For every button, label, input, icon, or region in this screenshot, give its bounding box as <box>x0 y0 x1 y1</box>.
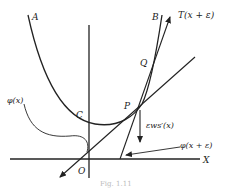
figure-caption: Fig. 1.11 <box>100 180 132 188</box>
phi-x-eps-leader <box>126 147 180 155</box>
label-eps-ws: εws′(x) <box>146 121 174 130</box>
label-C: C <box>76 110 83 120</box>
curve-ACPQB <box>28 15 162 125</box>
diagram: A B T(x + ε) Q P C O X φ(x) φ(x + ε) εws… <box>0 0 230 188</box>
tangent-line-T <box>120 17 170 159</box>
label-Q: Q <box>140 58 148 68</box>
label-phi-x: φ(x) <box>7 96 23 105</box>
label-A: A <box>31 12 39 22</box>
label-T: T(x + ε) <box>178 10 215 20</box>
label-P: P <box>123 101 131 111</box>
label-O: O <box>78 166 86 176</box>
label-X: X <box>202 155 210 165</box>
label-phi-x-eps: φ(x + ε) <box>180 141 212 150</box>
label-B: B <box>151 12 159 22</box>
